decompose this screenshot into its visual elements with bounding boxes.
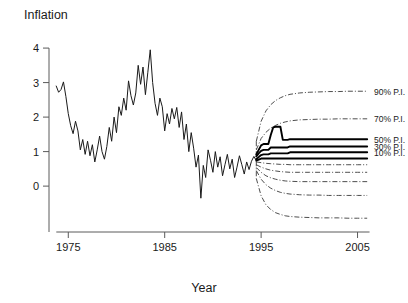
x-tick-label: 1985 <box>152 241 176 253</box>
fan-chart-plot: 012341975198519952005 90% P.I.70% P.I.50… <box>0 0 408 303</box>
series-historical-inflation <box>56 50 256 198</box>
series-central-forecast-median <box>256 159 367 161</box>
legend: 90% P.I.70% P.I.50% P.I.30% P.I.10% P.I. <box>374 87 405 158</box>
x-tick-label: 1975 <box>56 241 80 253</box>
series-30-p-i-lower <box>256 165 367 173</box>
x-tick-label: 2005 <box>345 241 369 253</box>
prediction-interval-bands <box>256 91 367 218</box>
legend-label-10: 10% P.I. <box>374 148 405 158</box>
series-70-p-i-lower <box>256 171 367 196</box>
y-tick-label: 2 <box>33 111 39 123</box>
y-tick-label: 1 <box>33 146 39 158</box>
y-tick-label: 4 <box>33 42 39 54</box>
x-tick-label: 1995 <box>249 241 273 253</box>
y-tick-label: 3 <box>33 77 39 89</box>
series-90-p-i-lower <box>256 179 367 219</box>
series-50-p-i-lower <box>256 167 367 181</box>
central-forecast-lines <box>256 127 367 161</box>
y-tick-label: 0 <box>33 180 39 192</box>
legend-label-90: 90% P.I. <box>374 87 405 97</box>
historical-inflation-line <box>56 50 256 198</box>
chart-figure: 012341975198519952005 90% P.I.70% P.I.50… <box>0 0 408 303</box>
series-70-p-i-upper <box>256 119 367 150</box>
series-90-p-i-upper <box>256 91 367 141</box>
y-axis-title: Inflation <box>24 8 68 22</box>
x-axis-title: Year <box>191 281 216 295</box>
series-10-p-i-lower <box>256 162 367 165</box>
series-50-p-i-upper <box>256 127 367 155</box>
legend-label-70: 70% P.I. <box>374 114 405 124</box>
tick-labels: 012341975198519952005 <box>33 42 370 253</box>
